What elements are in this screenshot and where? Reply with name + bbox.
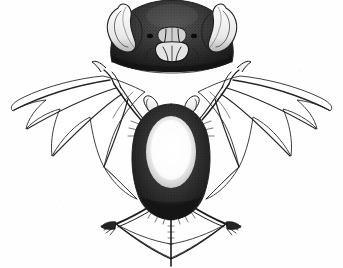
engraving-plate bbox=[0, 0, 343, 268]
bat-engraving-svg bbox=[0, 0, 343, 268]
head-detail bbox=[105, 0, 240, 76]
eye-left bbox=[147, 34, 153, 38]
eye-right bbox=[191, 34, 197, 38]
